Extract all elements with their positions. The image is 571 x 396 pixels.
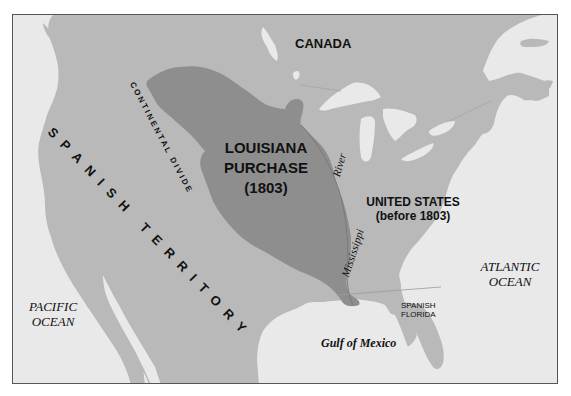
label-canada: CANADA [295, 37, 351, 50]
label-atlantic-ocean: ATLANTIC OCEAN [475, 259, 545, 289]
label-pacific-ocean: PACIFIC OCEAN [23, 299, 83, 329]
map-frame: CANADA LOUISIANA PURCHASE (1803) UNITED … [12, 14, 558, 384]
label-louisiana-line1: LOUISIANA [211, 138, 321, 158]
label-gulf-of-mexico: Gulf of Mexico [321, 337, 396, 349]
label-louisiana-line2: PURCHASE [211, 158, 321, 178]
label-spanish-florida: SPANISH FLORIDA [401, 301, 436, 319]
label-louisiana-line3: (1803) [211, 178, 321, 198]
label-spanish-florida-line2: FLORIDA [401, 310, 436, 319]
label-atlantic-line2: OCEAN [475, 274, 545, 289]
label-spanish-florida-line1: SPANISH [401, 301, 436, 310]
label-louisiana-purchase: LOUISIANA PURCHASE (1803) [211, 138, 321, 198]
label-pacific-line1: PACIFIC [23, 299, 83, 314]
label-united-states-line1: UNITED STATES [358, 195, 468, 209]
label-united-states: UNITED STATES (before 1803) [358, 195, 468, 223]
label-pacific-line2: OCEAN [23, 314, 83, 329]
map-canvas [13, 15, 558, 384]
label-atlantic-line1: ATLANTIC [475, 259, 545, 274]
label-united-states-line2: (before 1803) [358, 209, 468, 223]
